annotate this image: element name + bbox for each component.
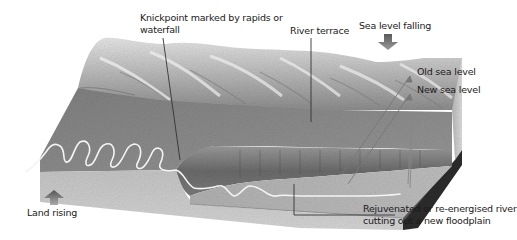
- knickpoint-label-line2: waterfall: [140, 24, 283, 36]
- rejuvenated-river-label: Rejuvenated or re-energised river cuttin…: [363, 203, 517, 227]
- new-sea-level-label: New sea level: [417, 84, 480, 96]
- down-arrow-icon: [378, 34, 398, 50]
- river-terrace-label: River terrace: [290, 25, 349, 37]
- rejuvenated-river-label-line1: Rejuvenated or re-energised river: [363, 203, 517, 215]
- rejuvenated-river-label-line2: cutting out a new floodplain: [363, 215, 517, 227]
- old-sea-level-label: Old sea level: [417, 66, 476, 78]
- sea-level-falling-label: Sea level falling: [359, 20, 431, 32]
- knickpoint-label: Knickpoint marked by rapids or waterfall: [140, 12, 283, 36]
- knickpoint-label-line1: Knickpoint marked by rapids or: [140, 12, 283, 24]
- land-rising-label: Land rising: [27, 207, 77, 219]
